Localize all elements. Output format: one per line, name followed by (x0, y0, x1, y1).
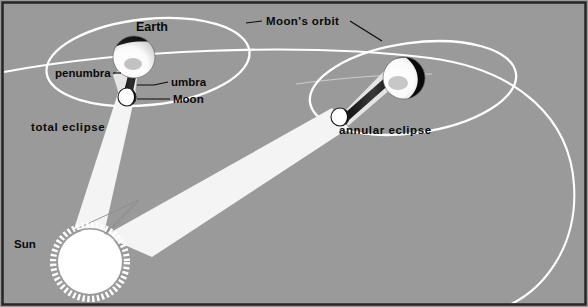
label-moon: Moon (173, 93, 204, 105)
label-total-eclipse: total eclipse (31, 121, 105, 133)
label-earth: Earth (136, 20, 168, 34)
sun-disc (58, 230, 122, 294)
earth-left-shadow-spot (124, 58, 142, 70)
label-penumbra: penumbra (55, 67, 111, 79)
label-umbra: umbra (171, 76, 207, 88)
earth-right-shadow-spot (388, 76, 408, 90)
label-sun: Sun (14, 238, 36, 250)
label-moons-orbit: Moon's orbit (266, 15, 339, 27)
label-annular-eclipse: annular eclipse (339, 124, 432, 136)
eclipse-diagram-canvas: Earth penumbra umbra Moon total eclipse … (0, 0, 588, 307)
eclipse-diagram-figure: Earth penumbra umbra Moon total eclipse … (0, 0, 588, 307)
